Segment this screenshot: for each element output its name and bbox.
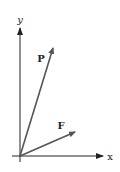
vector-diagram: y x P F <box>0 0 120 172</box>
vector-p <box>20 48 53 156</box>
x-axis-label: x <box>107 151 113 162</box>
vector-f-label: F <box>57 120 64 131</box>
vector-p-label: P <box>37 53 45 64</box>
y-axis-label: y <box>16 14 23 25</box>
vector-f <box>20 132 75 156</box>
